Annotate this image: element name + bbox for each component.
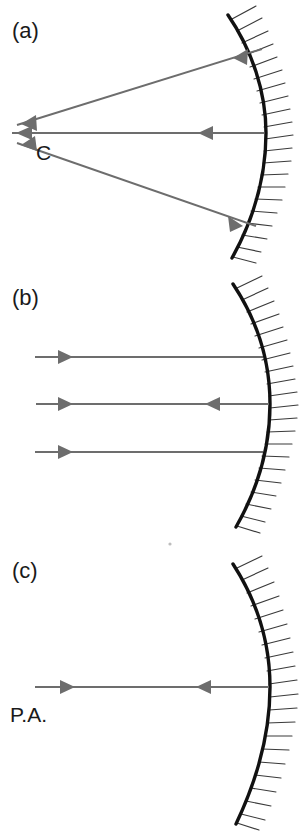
panel-a-label: (a) — [12, 18, 39, 43]
mirror-a-hatching — [232, 6, 293, 263]
ray-upper-a — [17, 49, 262, 125]
ray-axis-a-arrowhead-2 — [16, 126, 32, 140]
rays-panel-c — [35, 680, 269, 694]
concave-mirror-b — [233, 284, 270, 527]
ray-pa-arrowhead-reflected — [196, 680, 211, 694]
ray-bottom-b-arrowhead — [58, 445, 73, 459]
panel-c-label: (c) — [12, 558, 38, 583]
ray-middle-b-arrowhead-reflected — [205, 397, 220, 411]
scan-speck — [168, 542, 171, 545]
center-of-curvature-label: C — [36, 141, 51, 164]
ray-diagram-canvas: (a) — [0, 0, 303, 833]
principal-axis-label: P.A. — [10, 703, 47, 726]
panel-c: (c) — [10, 542, 298, 830]
concave-mirror-c — [233, 564, 270, 824]
panel-a: (a) — [12, 6, 293, 263]
ray-lower-a — [17, 143, 256, 226]
ray-axis-a-arrowhead-1 — [198, 126, 213, 140]
mirror-c-hatching — [237, 556, 298, 830]
ray-middle-b-arrowhead-in — [58, 397, 73, 411]
ray-pa-arrowhead-in — [60, 680, 75, 694]
panel-b-label: (b) — [12, 285, 39, 310]
ray-upper-a-arrowhead-1 — [233, 49, 248, 65]
ray-top-b-arrowhead — [58, 350, 73, 364]
ray-diagram-figure: (a) — [0, 0, 303, 833]
rays-panel-b — [35, 350, 269, 459]
panel-b: (b) — [12, 276, 298, 533]
